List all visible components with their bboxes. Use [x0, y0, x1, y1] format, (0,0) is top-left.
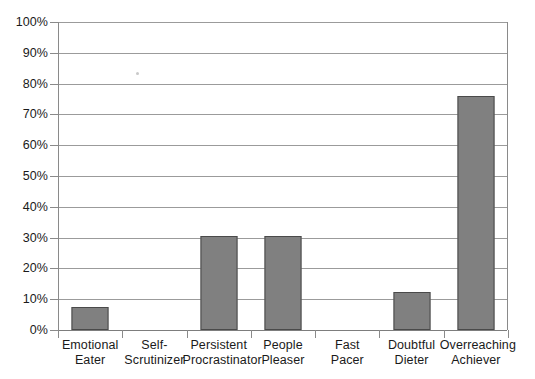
x-category-label-line1: Fast — [335, 338, 360, 352]
x-category-label-line1: Persistent — [190, 338, 247, 352]
x-category-label-line2: Pleaser — [247, 353, 319, 368]
x-category-label-line1: Emotional — [62, 338, 119, 352]
bar-chart: 0%10%20%30%40%50%60%70%80%90%100% Emotio… — [0, 0, 535, 379]
scan-speck — [136, 72, 139, 75]
x-category-label: OverreachingAchiever — [440, 338, 512, 367]
bar-slot — [122, 22, 186, 330]
x-category-label: PeoplePleaser — [247, 338, 319, 367]
y-tick-label: 90% — [0, 47, 48, 60]
x-tick-mark — [379, 330, 380, 338]
x-tick-mark — [444, 330, 445, 338]
bar — [72, 307, 109, 330]
x-category-label-line1: Self- — [141, 338, 167, 352]
x-category-label-line1: Overreaching — [440, 338, 516, 352]
x-category-label-line2: Procrastinator — [183, 353, 255, 368]
bar-slot — [379, 22, 443, 330]
y-tick-label: 80% — [0, 77, 48, 90]
x-category-label: DoubtfulDieter — [375, 338, 447, 367]
x-category-label-line1: Doubtful — [388, 338, 435, 352]
x-category-label: Self-Scrutinizer — [118, 338, 190, 367]
gridline — [59, 330, 507, 331]
y-tick-label: 10% — [0, 293, 48, 306]
x-tick-mark — [251, 330, 252, 338]
y-tick-label: 20% — [0, 262, 48, 275]
x-tick-mark — [187, 330, 188, 338]
x-tick-mark — [58, 330, 59, 338]
x-category-label-line2: Achiever — [440, 353, 512, 368]
y-tick-label: 40% — [0, 201, 48, 214]
y-tick-label: 50% — [0, 170, 48, 183]
bar-slot — [444, 22, 508, 330]
bar — [457, 96, 494, 330]
x-category-label-line2: Scrutinizer — [118, 353, 190, 368]
y-tick-label: 100% — [0, 16, 48, 29]
bar-slot — [315, 22, 379, 330]
y-tick-label: 60% — [0, 139, 48, 152]
x-category-label: PersistentProcrastinator — [183, 338, 255, 367]
y-tick-label: 0% — [0, 324, 48, 337]
bar-slot — [251, 22, 315, 330]
bar — [200, 236, 237, 330]
x-category-label: EmotionalEater — [54, 338, 126, 367]
bar — [393, 292, 430, 331]
bars-layer — [58, 22, 508, 330]
y-tick-label: 70% — [0, 108, 48, 121]
x-category-label-line1: People — [263, 338, 303, 352]
x-category-label-line2: Eater — [54, 353, 126, 368]
bar-slot — [58, 22, 122, 330]
x-category-label-line2: Dieter — [375, 353, 447, 368]
x-category-label: FastPacer — [311, 338, 383, 367]
x-tick-mark — [122, 330, 123, 338]
x-category-label-line2: Pacer — [311, 353, 383, 368]
bar-slot — [187, 22, 251, 330]
x-tick-mark — [315, 330, 316, 338]
y-tick-label: 30% — [0, 231, 48, 244]
x-tick-mark — [508, 330, 509, 338]
bar — [264, 236, 301, 330]
